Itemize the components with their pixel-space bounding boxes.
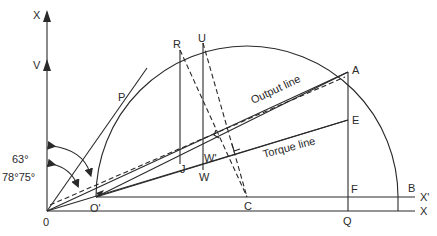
v-arrow-icon xyxy=(43,59,51,71)
right-angle-marker-2 xyxy=(232,144,240,151)
label-f: F xyxy=(351,183,358,195)
x-arrow-icon xyxy=(43,10,51,22)
label-q: Q xyxy=(343,215,352,227)
uc-dashed-line xyxy=(203,43,247,197)
tangent-line xyxy=(47,68,147,211)
label-vertical-x: X xyxy=(33,9,41,21)
label-e: E xyxy=(352,114,359,126)
label-r: R xyxy=(173,38,181,50)
label-a: A xyxy=(352,64,360,76)
circle-diagram: X V P R U A E F Q B X' X C 0 O' J W' W 6… xyxy=(0,0,437,236)
label-x-prime: X' xyxy=(420,191,429,203)
label-b: B xyxy=(408,182,415,194)
label-j: J xyxy=(180,163,186,175)
label-w: W xyxy=(199,171,210,183)
label-angle-78: 78°75° xyxy=(2,171,35,183)
label-angle-63: 63° xyxy=(12,153,29,165)
label-p: P xyxy=(118,91,125,103)
label-v: V xyxy=(33,59,41,71)
label-w-prime: W' xyxy=(204,152,216,164)
label-c: C xyxy=(244,200,252,212)
label-output-line: Output line xyxy=(249,72,302,105)
vertical-axis xyxy=(43,10,51,211)
angle-arc-63 xyxy=(52,146,90,173)
torque-line xyxy=(96,120,348,197)
label-origin: 0 xyxy=(43,216,49,228)
label-horizontal-x: X xyxy=(420,205,428,217)
label-u: U xyxy=(198,32,206,44)
label-o-prime: O' xyxy=(90,202,101,214)
